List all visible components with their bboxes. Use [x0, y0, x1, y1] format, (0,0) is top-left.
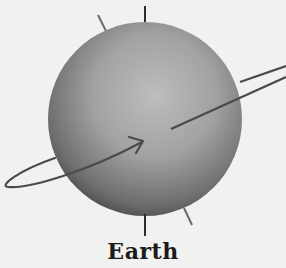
earth-diagram	[0, 0, 286, 268]
earth-sphere	[48, 22, 242, 216]
tilted-axis-bottom	[184, 208, 192, 225]
diagram-title: Earth	[0, 238, 286, 264]
tilted-axis-top	[98, 15, 106, 31]
